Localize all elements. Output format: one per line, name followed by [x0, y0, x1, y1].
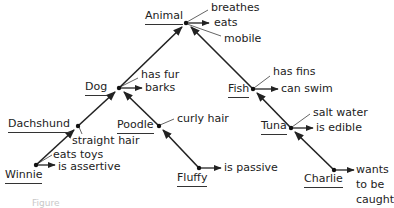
node-label-poodle: Poodle — [117, 119, 154, 134]
property-curly-hair: curly hair — [177, 113, 229, 125]
node-label-animal: Animal — [145, 10, 183, 25]
property-wants-line2: to be — [356, 179, 384, 191]
property-has-fins: has fins — [273, 66, 316, 78]
node-dot-fish — [251, 87, 255, 91]
node-dot-dog — [117, 86, 121, 90]
property-is-assertive: is assertive — [58, 161, 120, 173]
node-dot-winnie — [34, 163, 38, 167]
connector-breathes — [187, 10, 208, 22]
connector-straight-hair — [79, 127, 82, 134]
node-label-winnie: Winnie — [5, 169, 42, 184]
property-breathes: breathes — [211, 2, 260, 14]
property-is-edible: is edible — [316, 122, 362, 134]
property-is-passive: is passive — [224, 162, 278, 174]
node-label-fluffy: Fluffy — [177, 172, 207, 187]
node-label-charlie: Charlie — [304, 173, 343, 188]
property-has-fur: has fur — [141, 69, 179, 81]
node-label-dachshund: Dachshund — [8, 118, 70, 133]
property-can-swim: can swim — [281, 83, 333, 95]
edge-dachshund-dog — [78, 92, 115, 126]
property-eats: eats — [214, 17, 238, 29]
property-wants-line3: caught — [356, 194, 394, 206]
property-mobile: mobile — [224, 33, 261, 45]
connector-salt-water — [292, 114, 310, 127]
node-dot-animal — [184, 21, 188, 25]
edge-charlie-tuna — [295, 132, 334, 170]
property-salt-water: salt water — [313, 107, 368, 119]
edge-fluffy-poodle — [163, 130, 199, 168]
node-dot-tuna — [289, 126, 293, 130]
node-label-dog: Dog — [85, 81, 107, 96]
node-label-tuna: Tuna — [261, 120, 287, 135]
node-dot-fluffy — [197, 166, 201, 170]
node-label-fish: Fish — [228, 83, 249, 98]
node-dot-dachshund — [76, 124, 80, 128]
connector-curly-hair — [160, 119, 174, 125]
property-barks: barks — [145, 82, 175, 94]
property-straight-hair: straight hair — [72, 135, 139, 147]
property-wants-line1: wants — [356, 164, 389, 176]
node-dot-poodle — [157, 124, 161, 128]
connector-has-fins — [254, 76, 270, 88]
figure-caption: Figure — [32, 198, 59, 208]
